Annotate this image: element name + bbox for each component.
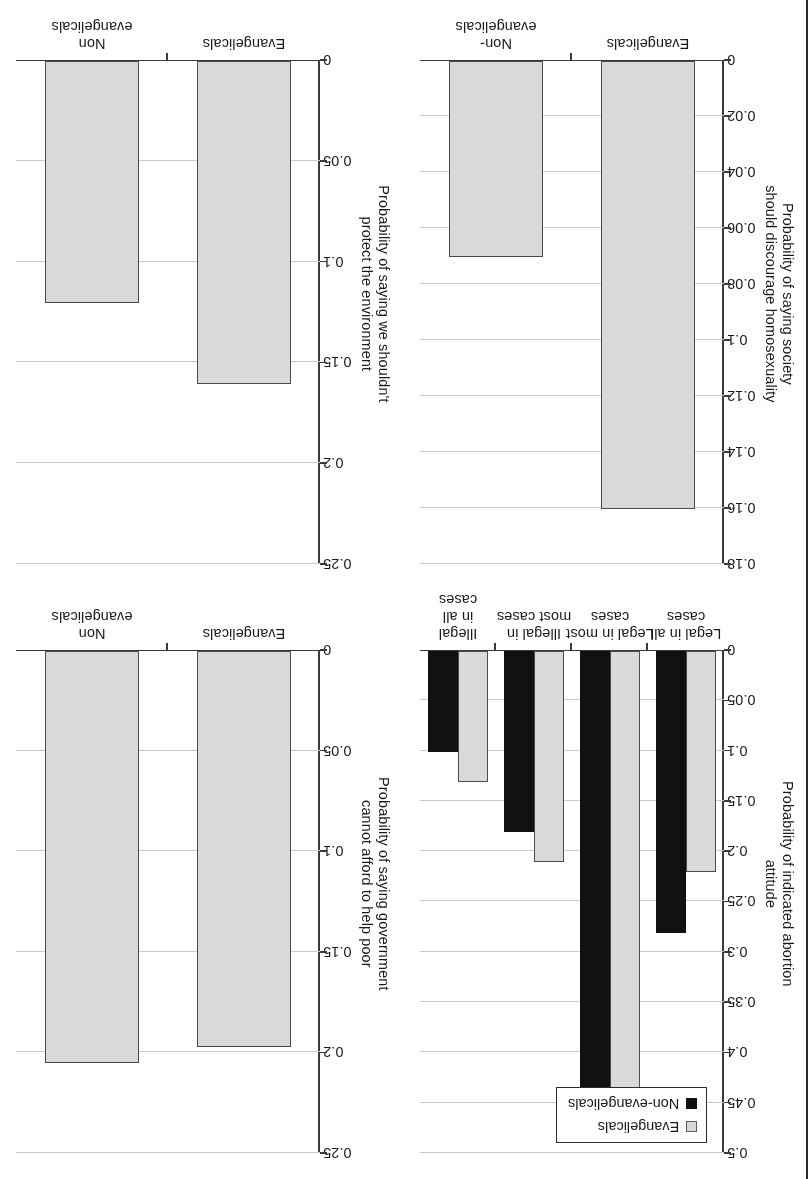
y-axis-tick (724, 283, 731, 285)
y-axis-title: Probability of indicated abortionattitud… (758, 598, 800, 1169)
y-axis-title-text: Probability of saying societyshould disc… (762, 185, 796, 403)
bar (656, 651, 686, 933)
y-axis-tick (724, 1152, 731, 1154)
y-axis-tick-label: 0.02 (727, 108, 756, 124)
y-axis-title-text: Probability of saying we shouldn'tprotec… (358, 185, 392, 402)
y-axis-title-text: Probability of indicated abortionattitud… (762, 781, 796, 987)
x-axis-category-label-line: Legal in most (566, 625, 654, 642)
plot-area-wrapper: EvangelicalsNon evangelicals (8, 8, 320, 580)
gridline (420, 563, 724, 564)
y-axis-tick (724, 1102, 731, 1104)
x-axis-category-label-line: Non evangelicals (52, 18, 133, 52)
x-axis-category-label: Non evangelicals (52, 608, 133, 642)
y-axis-tick-label: 0.08 (727, 276, 756, 292)
y-axis-title-line: cannot afford to help poor (358, 777, 375, 991)
x-axis-category-label-line: Evangelicals (607, 35, 690, 52)
x-axis-category-label-line: cases (651, 608, 722, 625)
y-axis-tick (724, 171, 731, 173)
y-axis-title-line: protect the environment (358, 185, 375, 402)
legend: EvangelicalsNon-evangelicals (556, 1087, 707, 1143)
x-axis-category-label-line: Non-evangelicals (456, 18, 537, 52)
y-axis-tick-label: 0.35 (727, 994, 756, 1010)
plot-area-wrapper: Legal in allcasesLegal in mostcasesIlleg… (412, 598, 724, 1169)
x-axis-category-label-line: Non evangelicals (52, 608, 133, 642)
y-axis-tick-labels: 00.050.10.150.20.25 (320, 598, 354, 1169)
y-axis-line (319, 60, 321, 564)
x-axis-category-label: Legal in allcases (651, 608, 722, 642)
x-axis-category-label: Non-evangelicals (456, 18, 537, 52)
x-axis-category-labels: EvangelicalsNon evangelicals (16, 16, 320, 58)
y-axis-title-line: Probability of saying society (779, 185, 796, 403)
bar (610, 651, 640, 1104)
x-axis-category-label: Non evangelicals (52, 18, 133, 52)
y-axis-tick-label: 0.15 (727, 793, 756, 809)
x-axis-category-label-line: Evangelicals (203, 625, 286, 642)
y-axis-tick (320, 261, 327, 263)
y-axis-title-line: attitude (762, 781, 779, 987)
bar (601, 61, 695, 509)
bar (449, 61, 543, 257)
y-axis-title: Probability of saying governmentcannot a… (354, 598, 396, 1169)
y-axis-tick-label: 0.15 (323, 354, 352, 370)
y-axis-tick-labels: 00.050.10.150.20.25 (320, 8, 354, 580)
y-axis-tick (724, 115, 731, 117)
x-axis-category-label: Illegal in allcases (439, 591, 478, 642)
panel-grid: Probability of indicated abortionattitud… (0, 0, 808, 1179)
panel-help-poor: Probability of saying governmentcannot a… (0, 590, 404, 1179)
y-axis-line (319, 650, 321, 1153)
y-axis-tick (724, 901, 731, 903)
gridline (16, 462, 320, 463)
y-axis-tick (320, 1052, 327, 1054)
y-axis-tick (724, 1001, 731, 1003)
plot-area-wrapper: EvangelicalsNon-evangelicals (412, 8, 724, 580)
y-axis-title-line: Probability of saying government (375, 777, 392, 991)
legend-item: Evangelicals (568, 1119, 697, 1135)
bar (534, 651, 564, 862)
y-axis-title-line: should discourage homosexuality (762, 185, 779, 403)
y-axis-tick (320, 649, 327, 651)
y-axis-tick (724, 800, 731, 802)
bar (45, 651, 139, 1063)
y-axis-tick (724, 59, 731, 61)
x-axis-category-labels: EvangelicalsNon-evangelicals (420, 16, 724, 58)
panel-abortion: Probability of indicated abortionattitud… (404, 590, 808, 1179)
x-axis-category-label: Evangelicals (607, 35, 690, 52)
gridline (420, 951, 724, 952)
y-axis-title-text: Probability of saying governmentcannot a… (358, 777, 392, 991)
y-axis-tick-label: 0.45 (727, 1095, 756, 1111)
y-axis-tick (724, 227, 731, 229)
bar (197, 651, 291, 1047)
y-axis-line (723, 60, 725, 564)
legend-label: Non-evangelicals (568, 1096, 679, 1112)
y-axis-tick (320, 563, 327, 565)
plot-area (16, 60, 320, 564)
y-axis-tick (320, 850, 327, 852)
plot-area-wrapper: EvangelicalsNon evangelicals (8, 598, 320, 1169)
bar (580, 651, 610, 1114)
x-axis-category-label-line: most cases (497, 608, 571, 625)
y-axis-tick (724, 507, 731, 509)
x-axis-category-label: Evangelicals (203, 625, 286, 642)
gridline (420, 1001, 724, 1002)
x-axis-category-label-line: cases (566, 608, 654, 625)
y-axis-tick (320, 362, 327, 364)
y-axis-tick (724, 951, 731, 953)
legend-swatch-gray (686, 1122, 697, 1133)
bar (458, 651, 488, 782)
plot-area (420, 60, 724, 564)
y-axis-tick-labels: 00.050.10.150.20.250.30.350.40.450.5 (724, 598, 758, 1169)
bar (45, 61, 139, 303)
y-axis-tick (724, 563, 731, 565)
y-axis-tick (724, 1052, 731, 1054)
y-axis-title-line: Probability of indicated abortion (779, 781, 796, 987)
y-axis-tick (320, 750, 327, 752)
gridline (16, 563, 320, 564)
x-axis-category-labels: EvangelicalsNon evangelicals (16, 606, 320, 648)
y-axis-tick (724, 339, 731, 341)
bar (428, 651, 458, 752)
y-axis-tick-label: 0.05 (323, 153, 352, 169)
x-axis-category-label: Evangelicals (203, 35, 286, 52)
y-axis-tick-label: 0.14 (727, 444, 756, 460)
bar (197, 61, 291, 384)
y-axis-title: Probability of saying societyshould disc… (758, 8, 800, 580)
